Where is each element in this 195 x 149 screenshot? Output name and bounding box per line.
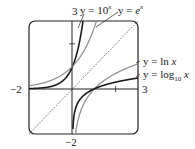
label-ln-text: y = ln (143, 55, 172, 67)
label-ln-var: x (172, 55, 177, 67)
label-log10-text: y = log (143, 68, 174, 80)
curve-ex (29, 21, 97, 86)
curve-log10x (73, 78, 138, 129)
y-min-label: −2 (65, 137, 77, 148)
x-min-label: −2 (10, 84, 22, 95)
x-max-label: 3 (142, 84, 148, 95)
label-ex-sup: x (140, 3, 143, 11)
label-10x: y = 10x (80, 4, 111, 16)
y-max-label: 3 (72, 6, 78, 17)
label-log10-var: x (184, 68, 189, 80)
label-10x-sup: x (108, 3, 111, 11)
curve-lnx (76, 64, 138, 133)
label-log10-sub: 10 (174, 75, 181, 83)
label-ln: y = ln x (143, 56, 176, 67)
label-10x-text: y = 10 (80, 4, 108, 16)
label-ex: y = ex (118, 4, 143, 16)
label-ex-text: y = (118, 4, 135, 16)
curve-x (29, 21, 138, 134)
label-log10: y = log10 x (143, 69, 189, 83)
